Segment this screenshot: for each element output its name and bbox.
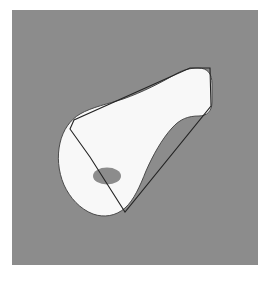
interior-ellipse-marker-shape [93, 168, 121, 185]
figure-panel [12, 10, 258, 265]
figure-svg [12, 10, 258, 265]
figure-root [0, 0, 275, 281]
